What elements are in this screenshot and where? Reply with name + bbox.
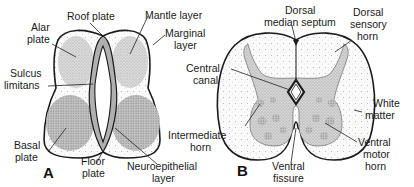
label-dorsal-median-septum-line1: Dorsal <box>285 5 315 16</box>
label-alar-plate-line2: plate <box>27 34 50 45</box>
label-mantle-layer: Mantle layer <box>145 10 202 21</box>
label-white-matter-line1: White <box>373 98 400 109</box>
label-alar-plate-line1: Alar <box>31 22 50 33</box>
label-central-canal-line1: Central <box>186 63 220 74</box>
label-neuroepithelial-line2: layer <box>152 173 175 184</box>
label-ventral-fissure-line1: Ventral <box>272 161 305 172</box>
label-floor-plate-line1: Floor <box>81 156 105 167</box>
label-dorsal-sensory-horn-line1: Dorsal <box>353 7 383 18</box>
label-intermediate-horn-line1: Intermediate <box>168 130 226 141</box>
label-dorsal-sensory-horn-line2: sensory <box>350 19 387 30</box>
label-sulcus-limitans-line1: Sulcus <box>10 68 42 79</box>
panel-b-letter: B <box>237 162 248 179</box>
label-neuroepithelial-line1: Neuroepithelial <box>127 161 197 172</box>
panel-b-spinal-cord <box>217 33 374 160</box>
label-basal-plate-line1: Basal <box>14 140 40 151</box>
label-marginal-layer-line2: layer <box>174 40 197 51</box>
label-basal-plate-line2: plate <box>15 152 38 163</box>
label-floor-plate-line2: plate <box>82 168 105 179</box>
label-white-matter-line2: matter <box>365 110 395 121</box>
label-dorsal-median-septum-line2: median septum <box>264 17 336 28</box>
label-marginal-layer-line1: Marginal <box>165 28 205 39</box>
label-ventral-fissure-line2: fissure <box>273 173 304 184</box>
panel-a-letter: A <box>43 164 54 181</box>
label-ventral-motor-horn-line1: Ventral <box>358 137 391 148</box>
label-roof-plate: Roof plate <box>67 11 115 22</box>
label-dorsal-sensory-horn-line3: horn <box>357 31 378 42</box>
label-sulcus-limitans-line2: limitans <box>4 80 40 91</box>
label-central-canal-line2: canal <box>193 75 218 86</box>
label-ventral-motor-horn-line3: horn <box>365 161 386 172</box>
label-intermediate-horn-line2: horn <box>190 142 211 153</box>
panel-a-neural-tube <box>44 30 160 158</box>
spinal-cord-diagram: Roof plate Alar plate Mantle layer Margi… <box>0 0 414 187</box>
label-ventral-motor-horn-line2: motor <box>363 149 390 160</box>
